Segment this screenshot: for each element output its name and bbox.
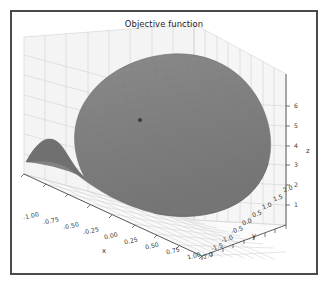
- z-axis-label: z: [306, 148, 310, 155]
- z-tick-label: 6: [294, 103, 298, 109]
- optimum-marker: [138, 118, 142, 122]
- z-tick-label: 4: [294, 143, 298, 149]
- z-tick-label: 1: [294, 202, 298, 208]
- screenshot-root: Objective function -1.00 -0.75 -0.50 -0.…: [0, 0, 332, 288]
- z-tick-label: 2: [294, 182, 298, 188]
- z-tick-label: 3: [294, 162, 298, 168]
- surface-plot-svg: [12, 12, 316, 273]
- axis-spine-z: [286, 74, 290, 225]
- figure-frame: Objective function -1.00 -0.75 -0.50 -0.…: [10, 10, 318, 275]
- chart-title: Objective function: [12, 19, 316, 29]
- plot-area-3d: Objective function -1.00 -0.75 -0.50 -0.…: [12, 12, 316, 273]
- x-axis-label: x: [102, 248, 106, 255]
- y-axis-label: y: [252, 233, 256, 240]
- z-tick-label: 5: [294, 123, 298, 129]
